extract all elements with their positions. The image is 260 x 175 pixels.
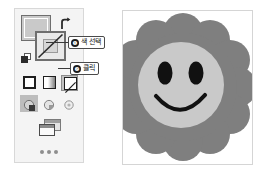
callout-label-1: 색 선택 (81, 38, 101, 47)
right-eye (189, 62, 204, 85)
fill-mode-gradient-button[interactable] (41, 75, 58, 91)
stroke-swatch-none[interactable] (35, 31, 66, 61)
draw-behind-button[interactable] (40, 95, 58, 112)
solid-color-icon (23, 76, 36, 89)
more-tools-button[interactable] (40, 149, 60, 155)
swap-fill-stroke-icon[interactable] (59, 16, 73, 30)
callout-label-2: 클릭 (83, 64, 95, 73)
default-front-square (21, 56, 28, 63)
draw-inside-button[interactable] (60, 95, 78, 112)
draw-normal-icon (23, 97, 36, 110)
fill-mode-row (21, 75, 79, 91)
smiley-flower-artwork (123, 11, 253, 165)
callout-color-select: ❶ 색 선택 (68, 36, 105, 49)
left-eye (158, 62, 173, 85)
callout-badge-1: ❶ (71, 39, 79, 47)
none-slash-icon (37, 33, 64, 59)
draw-normal-button[interactable] (20, 95, 38, 112)
none-icon (64, 77, 77, 90)
fill-mode-none-button[interactable] (61, 75, 78, 91)
draw-mode-row (20, 95, 80, 112)
screen-mode-front-titlebar (40, 125, 54, 128)
artboard-frame (122, 10, 253, 165)
callout-leader-1 (46, 42, 68, 43)
flower-face (138, 42, 224, 128)
tools-panel (14, 8, 84, 163)
draw-inside-icon (63, 97, 76, 110)
ellipsis-dot (40, 150, 44, 154)
screen-mode-back-titlebar (45, 120, 60, 123)
gradient-icon (43, 76, 56, 89)
ellipsis-dot (47, 150, 51, 154)
callout-badge-2: ❷ (73, 65, 81, 73)
screenshot-root: ❶ 색 선택 ❷ 클릭 (0, 0, 260, 175)
fill-mode-color-button[interactable] (21, 75, 38, 91)
callout-leader-2 (58, 68, 70, 69)
default-fill-stroke-icon[interactable] (21, 53, 32, 64)
screen-mode-button[interactable] (39, 119, 61, 136)
screen-mode-front-window (39, 124, 55, 136)
draw-behind-icon (43, 97, 56, 110)
ellipsis-dot (54, 150, 58, 154)
callout-click: ❷ 클릭 (70, 62, 99, 75)
